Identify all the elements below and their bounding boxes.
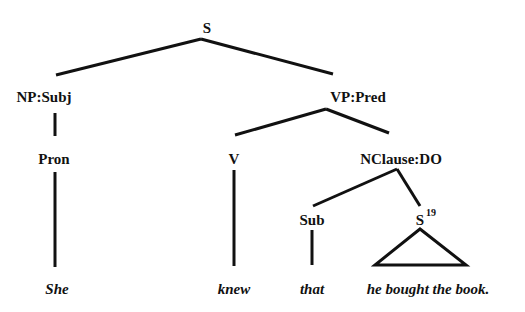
word-knew: knew (218, 281, 252, 297)
node-vp-pred: VP:Pred (330, 89, 386, 105)
edge-vp-v (235, 109, 326, 135)
node-s: S (203, 20, 211, 36)
node-v: V (229, 151, 240, 167)
triangle-s-clause (375, 229, 466, 265)
node-nclause-do: NClause:DO (360, 151, 442, 167)
tree-words: She knew that he bought the book. (45, 281, 489, 297)
node-sub: Sub (299, 212, 324, 228)
node-pron: Pron (38, 151, 70, 167)
node-np-subj: NP:Subj (16, 89, 71, 105)
syntax-tree-diagram: S NP:Subj VP:Pred Pron V NClause:DO Sub … (0, 0, 525, 312)
node-s-inner: S (416, 212, 424, 228)
node-s-inner-superscript: 19 (426, 207, 436, 218)
edge-vp-nclause (326, 109, 389, 133)
word-that: that (300, 281, 325, 297)
edge-nclause-s (397, 169, 420, 206)
tree-labels: S NP:Subj VP:Pred Pron V NClause:DO Sub … (16, 20, 441, 228)
edge-s-np (56, 39, 201, 75)
edge-nclause-sub (313, 169, 397, 206)
edge-s-vp (201, 39, 333, 74)
word-clause: he bought the book. (367, 281, 490, 297)
word-she: She (45, 281, 69, 297)
